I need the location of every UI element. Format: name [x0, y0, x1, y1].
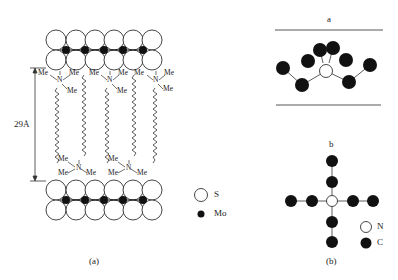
methyl-label: Me — [163, 85, 173, 93]
nitrogen-legend-label: N — [377, 222, 384, 231]
methyl-label: Me — [108, 169, 118, 177]
diagram-canvas — [0, 0, 398, 280]
nitrogen-label: N — [153, 76, 158, 84]
methyl-label: Me — [69, 69, 79, 77]
sulfur-legend-symbol — [195, 189, 208, 202]
panel-b-caption: (b) — [326, 257, 337, 266]
methyl-label: Me — [108, 155, 118, 163]
sulfur-legend-label: S — [214, 190, 219, 199]
nitrogen-label: N — [107, 76, 112, 84]
methyl-label: Me — [38, 69, 48, 77]
nitrogen-legend-symbol — [361, 222, 372, 233]
nitrogen-label: N — [57, 76, 62, 84]
carbon-legend-symbol — [361, 238, 372, 249]
nitrogen-label: N — [126, 164, 131, 172]
interlayer-distance-label: 29Å — [14, 120, 30, 129]
methyl-label: Me — [164, 69, 174, 77]
methyl-label: Me — [67, 87, 77, 95]
methyl-label: Me — [134, 69, 144, 77]
methyl-label: Me — [58, 155, 68, 163]
view-a-label: a — [327, 15, 331, 24]
panel-a-caption: (a) — [89, 257, 99, 266]
molybdenum-legend-symbol — [198, 211, 205, 218]
molybdenum-legend-label: Mo — [214, 209, 227, 218]
view-b-label: b — [329, 140, 334, 149]
methyl-label: Me — [86, 169, 96, 177]
carbon-legend-label: C — [377, 238, 383, 247]
methyl-label: Me — [58, 169, 68, 177]
interlayer-distance-arrow — [30, 68, 46, 181]
methyl-label: Me — [117, 87, 127, 95]
view-b-nitrogen-atom — [327, 196, 338, 207]
view-a-nitrogen-atom — [320, 65, 333, 78]
nitrogen-label: N — [76, 164, 81, 172]
methyl-label: Me — [89, 69, 99, 77]
methyl-label: Me — [118, 69, 128, 77]
methyl-label: Me — [137, 169, 147, 177]
